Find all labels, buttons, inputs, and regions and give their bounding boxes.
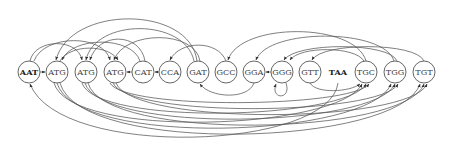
node-tgg[interactable]: TGG [384, 61, 406, 83]
node-cat[interactable]: CAT [132, 61, 154, 83]
svg-text:GGG: GGG [272, 67, 292, 77]
node-gcc[interactable]: GCC [215, 61, 237, 83]
edge-gtt-tgc [310, 83, 360, 91]
node-atg-3[interactable]: ATG [104, 61, 126, 83]
svg-text:GGA: GGA [245, 67, 264, 77]
edge-aat-atg2 [30, 44, 82, 61]
node-gtt[interactable]: GTT [299, 61, 321, 83]
edge-ggg-self [275, 83, 287, 96]
node-tgc[interactable]: TGC [355, 61, 377, 83]
svg-text:TGC: TGC [357, 67, 375, 77]
svg-text:TGT: TGT [415, 67, 433, 77]
node-taa[interactable]: TAA [327, 61, 349, 83]
edge-tgg-gga [256, 36, 394, 61]
svg-text:GTT: GTT [301, 67, 319, 77]
svg-text:ATG: ATG [105, 67, 123, 77]
edge-gcc-cca [170, 45, 226, 61]
edge-tgt-gtt [312, 47, 424, 61]
edge-aat-atg3 [34, 41, 110, 61]
node-ggg[interactable]: GGG [271, 61, 293, 83]
codon-graph: AAT ATG ATG ATG CAT CCA GAT GCC [0, 0, 449, 168]
svg-text:AAT: AAT [19, 67, 39, 77]
nodes: AAT ATG ATG ATG CAT CCA GAT GCC [18, 61, 435, 83]
edge-taa-aat [30, 83, 338, 137]
svg-text:CAT: CAT [134, 67, 152, 77]
edge-atg2-tgc [82, 83, 366, 113]
svg-text:TGG: TGG [386, 67, 405, 77]
svg-text:ATG: ATG [47, 67, 65, 77]
edge-gat-atg3 [114, 38, 200, 61]
node-gat[interactable]: GAT [187, 61, 209, 83]
node-tgt[interactable]: TGT [413, 61, 435, 83]
svg-text:GAT: GAT [189, 67, 207, 77]
node-aat[interactable]: AAT [18, 61, 40, 83]
edge-gga-gat [200, 83, 254, 95]
edges-top [30, 19, 424, 61]
svg-text:TAA: TAA [329, 67, 348, 77]
node-atg-1[interactable]: ATG [46, 61, 68, 83]
edge-gat-atg2 [86, 29, 194, 61]
svg-text:GCC: GCC [216, 67, 235, 77]
edges-bottom [30, 83, 427, 137]
edge-atg1-atg3 [60, 48, 118, 61]
node-gga[interactable]: GGA [243, 61, 265, 83]
node-atg-2[interactable]: ATG [75, 61, 97, 83]
svg-text:ATG: ATG [76, 67, 94, 77]
node-cca[interactable]: CCA [159, 61, 181, 83]
svg-text:CCA: CCA [161, 67, 180, 77]
